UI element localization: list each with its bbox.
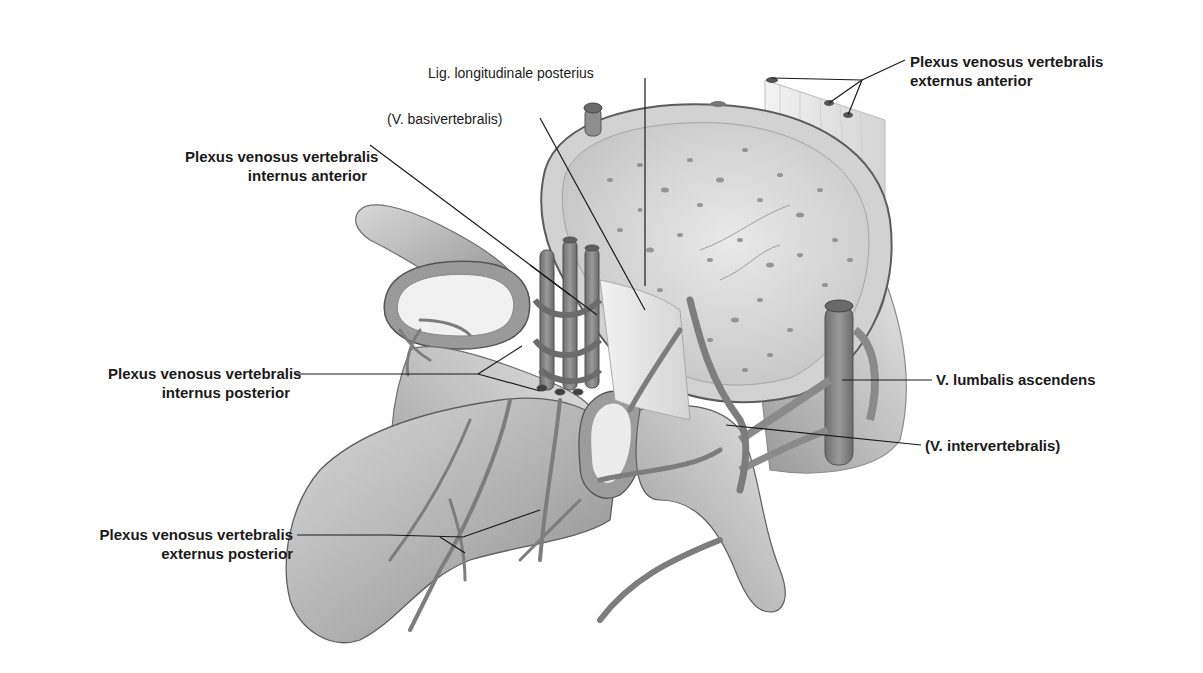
label-plexus-externus-anterior: Plexus venosus vertebralis externus ante… — [910, 52, 1103, 90]
label-line: Plexus venosus vertebralis — [50, 525, 293, 544]
label-line: V. lumbalis ascendens — [936, 370, 1096, 389]
label-line: Plexus venosus vertebralis — [108, 364, 290, 383]
label-v-lumbalis-ascendens: V. lumbalis ascendens — [936, 370, 1096, 389]
label-plexus-internus-anterior: Plexus venosus vertebralis internus ante… — [185, 147, 367, 185]
label-lig-longitudinale-posterius: Lig. longitudinale posterius — [428, 64, 594, 83]
label-line: externus anterior — [910, 71, 1103, 90]
label-line: Plexus venosus vertebralis — [185, 147, 367, 166]
label-line: internus anterior — [185, 166, 367, 185]
vertebra-illustration — [0, 0, 1203, 673]
transverse-process-lower — [286, 398, 620, 643]
label-line: Lig. longitudinale posterius — [428, 64, 594, 83]
internal-venous-plexus — [535, 237, 600, 395]
label-line: Plexus venosus vertebralis — [910, 52, 1103, 71]
superior-articular-process — [384, 261, 529, 349]
label-plexus-internus-posterior: Plexus venosus vertebralis internus post… — [108, 364, 290, 402]
label-line: externus posterior — [50, 544, 293, 563]
label-plexus-externus-posterior: Plexus venosus vertebralis externus post… — [50, 525, 293, 563]
label-line: (V. intervertebralis) — [925, 436, 1060, 455]
label-v-intervertebralis: (V. intervertebralis) — [925, 436, 1060, 455]
label-v-basivertebralis: (V. basivertebralis) — [387, 110, 502, 129]
spinous-process — [636, 405, 785, 612]
label-line: (V. basivertebralis) — [387, 110, 502, 129]
label-line: internus posterior — [108, 383, 290, 402]
